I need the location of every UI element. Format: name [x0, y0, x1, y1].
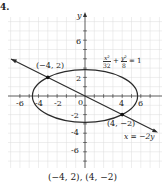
eq-den1: 32	[103, 62, 111, 69]
axes	[8, 12, 162, 168]
y-tick-6: 6	[76, 38, 81, 46]
point-label-1: (−4, 2)	[36, 62, 64, 70]
x-tick-neg2: -2	[54, 100, 62, 108]
eq-den2: 8	[121, 62, 127, 69]
intersection-point-2	[120, 113, 124, 117]
x-tick-4: 4	[119, 100, 124, 108]
y-tick-neg4: -4	[71, 129, 79, 137]
x-tick-neg4: -4	[35, 100, 43, 108]
eq-num2: y²	[121, 54, 127, 62]
y-tick-neg2: -2	[71, 112, 79, 120]
intersection-point-1	[46, 76, 50, 80]
point-label-2: (4, −2)	[107, 120, 135, 128]
line-equation: x = −2y	[124, 133, 155, 141]
y-tick-2: 2	[76, 75, 81, 83]
y-axis-label: y	[77, 12, 82, 20]
ellipse-equation: x²32 + y²8 = 1	[103, 54, 142, 69]
problem-number: 4.	[0, 2, 9, 12]
caption: (−4, 2), (4, −2)	[0, 172, 165, 182]
x-tick-6: 6	[138, 100, 143, 108]
x-tick-neg6: -6	[16, 100, 24, 108]
y-tick-neg6: -6	[71, 147, 79, 155]
eq-plus: +	[113, 57, 119, 65]
x-tick-0: 0	[78, 99, 83, 107]
eq-num1: x²	[103, 54, 111, 62]
graph	[0, 0, 165, 185]
eq-rhs: = 1	[129, 57, 142, 65]
